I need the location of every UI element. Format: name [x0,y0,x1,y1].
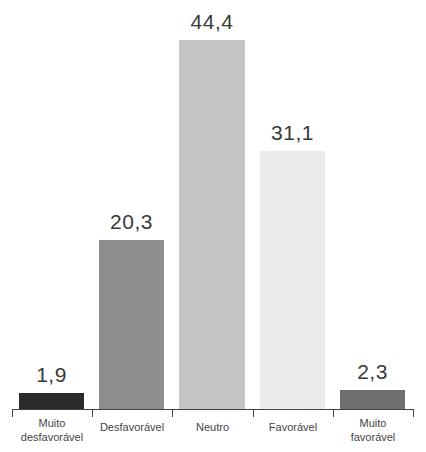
bar-favorável [260,151,325,409]
category-label: Desfavorável [87,420,177,434]
category-label: Favorável [248,420,338,434]
x-axis-tick [253,409,254,417]
bar-value-label: 20,3 [82,210,182,234]
bar-value-label: 31,1 [243,121,343,145]
bar-muito-desfavorável [19,393,84,409]
bar-value-label: 2,3 [323,360,423,384]
category-label: Muitodesfavorável [7,416,97,444]
bar-value-label: 1,9 [2,363,102,387]
category-label: Neutro [168,420,258,434]
x-axis-line [12,409,414,410]
category-label: Muitofavorável [328,416,418,444]
bar-neutro [179,40,245,409]
x-axis-tick [172,409,173,417]
bar-desfavorável [99,240,164,409]
bar-value-label: 44,4 [162,10,262,34]
bar-muito-favorável [340,390,405,409]
